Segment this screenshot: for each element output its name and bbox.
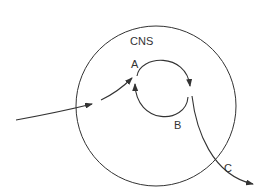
cns-boundary-circle <box>76 26 236 186</box>
loop-arc-top <box>137 60 190 86</box>
input-path-segment <box>101 78 132 100</box>
cns-label: CNS <box>130 35 153 47</box>
loop-arc-bottom <box>135 84 188 117</box>
input-path-arrow <box>16 104 92 120</box>
cns-loop-diagram: CNS A B C <box>0 0 265 194</box>
node-label-c: C <box>224 162 232 174</box>
node-label-a: A <box>131 58 139 70</box>
node-label-b: B <box>174 119 181 131</box>
output-path-arrow <box>192 96 253 184</box>
